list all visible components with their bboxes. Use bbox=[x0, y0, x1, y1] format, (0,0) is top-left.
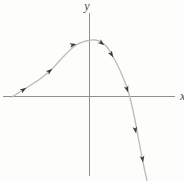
direction-arrow-icon bbox=[20, 86, 28, 94]
y-axis-label: y bbox=[83, 0, 90, 13]
curve-path bbox=[12, 40, 147, 181]
curve-plot-svg: yx bbox=[0, 0, 184, 181]
parametric-curve-figure: yx bbox=[0, 0, 184, 181]
x-axis-label: x bbox=[179, 89, 184, 103]
